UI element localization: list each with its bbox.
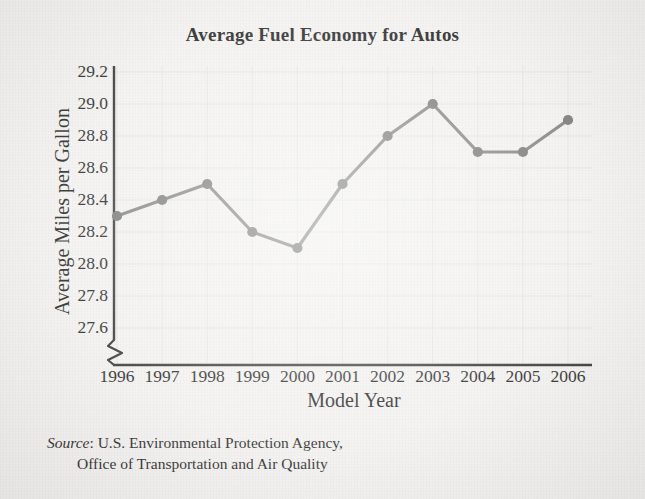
- data-point-marker: [563, 115, 573, 125]
- source-separator: :: [89, 434, 97, 451]
- source-line-2: Office of Transportation and Air Quality: [47, 454, 343, 475]
- data-point-marker: [292, 243, 302, 253]
- source-line-1: U.S. Environmental Protection Agency,: [98, 434, 343, 451]
- fuel-economy-figure: Average Fuel Economy for Autos Average M…: [0, 0, 645, 499]
- data-point-marker: [337, 179, 347, 189]
- data-point-marker: [247, 227, 257, 237]
- data-point-marker: [428, 99, 438, 109]
- source-note: Source: U.S. Environmental Protection Ag…: [47, 433, 343, 475]
- plot-area: [0, 0, 645, 499]
- x-axis-title: Model Year: [114, 389, 594, 412]
- data-point-marker: [202, 179, 212, 189]
- data-point-marker: [473, 147, 483, 157]
- data-point-marker: [383, 131, 393, 141]
- x-tick-label: 2006: [538, 366, 598, 387]
- horizontal-gridlines: [115, 72, 592, 328]
- source-label: Source: [47, 434, 89, 451]
- vertical-gridlines: [117, 66, 568, 363]
- data-point-marker: [518, 147, 528, 157]
- axis-break-icon: [108, 340, 122, 365]
- data-point-marker: [157, 195, 167, 205]
- data-point-marker: [112, 211, 122, 221]
